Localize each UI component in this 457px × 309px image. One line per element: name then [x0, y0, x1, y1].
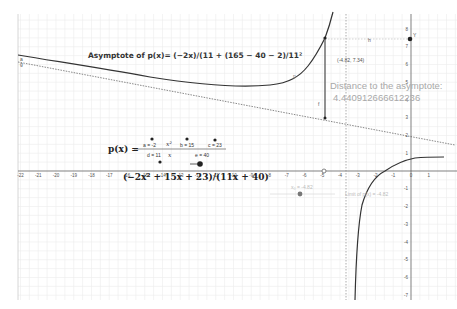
curve-p-right-branch[interactable] — [355, 157, 444, 300]
distance-label: Distance to the asymptote: 4.44091266661… — [330, 80, 442, 104]
svg-text:-18: -18 — [88, 173, 95, 178]
svg-text:-4: -4 — [404, 240, 408, 245]
svg-text:-1: -1 — [391, 173, 395, 178]
svg-text:-2: -2 — [404, 204, 408, 209]
svg-text:-7: -7 — [285, 173, 289, 178]
distance-value: 4.440912666612236 — [333, 92, 442, 104]
slider-d-handle[interactable] — [158, 160, 161, 163]
px-label: p(x) = — [108, 144, 139, 154]
slider-e-handle[interactable] — [197, 161, 203, 167]
svg-text:-20: -20 — [53, 173, 60, 178]
point-on-x-axis[interactable] — [322, 169, 326, 173]
svg-text:-5: -5 — [320, 173, 324, 178]
point-y[interactable] — [408, 37, 413, 42]
slider-x0-label: x₀ = -4.82 — [291, 184, 313, 190]
graph-canvas[interactable]: -22-21-20-19-18-17-16-15-14-13-12-11-10-… — [0, 0, 457, 309]
slider-x0-handle[interactable] — [298, 192, 303, 197]
slider-b-handle[interactable] — [185, 137, 188, 140]
point-coords-label: (-4.82, 7.34) — [337, 57, 364, 63]
svg-text:-22: -22 — [17, 173, 24, 178]
segment-f-label: f — [318, 101, 319, 107]
segment-h-label: h — [368, 37, 371, 43]
point-on-asymptote[interactable] — [324, 117, 327, 120]
x-squared: x² — [166, 140, 172, 147]
slider-c-label: c = 23 — [208, 142, 222, 148]
slider-a-label: a = -2 — [143, 142, 156, 148]
slider-e-label: e = 40 — [195, 152, 209, 158]
svg-text:-21: -21 — [35, 173, 42, 178]
slider-a-handle[interactable] — [150, 137, 153, 140]
svg-text:-7: -7 — [404, 293, 408, 298]
svg-text:-4: -4 — [338, 173, 342, 178]
svg-text:-6: -6 — [302, 173, 306, 178]
svg-text:-3: -3 — [356, 173, 360, 178]
svg-text:-17: -17 — [106, 173, 113, 178]
svg-text:-6: -6 — [404, 275, 408, 280]
svg-text:-3: -3 — [404, 222, 408, 227]
point-t[interactable] — [323, 36, 326, 39]
slider-b-label: b = 15 — [180, 142, 194, 148]
x-variable: x — [168, 151, 171, 158]
line-g-label: g — [20, 61, 23, 67]
curve-p-left-branch[interactable] — [18, 12, 333, 86]
svg-text:-1: -1 — [404, 186, 408, 191]
chart-title: Asymptote of p(x)= (−2x)/(11 + (165 − 40… — [88, 51, 302, 60]
point-y-label: Y — [413, 32, 416, 38]
distance-title: Distance to the asymptote: — [330, 80, 442, 92]
svg-text:-5: -5 — [404, 257, 408, 262]
slider-d-label: d = 11 — [147, 152, 161, 158]
svg-text:1: 1 — [427, 173, 430, 178]
limit-label: Limit of p(x) = -4.82 — [345, 191, 388, 197]
svg-text:-19: -19 — [70, 173, 77, 178]
curve-p-label: p — [293, 73, 296, 79]
expression-label: (−2x² + 15x + 23)/(11x + 40) — [123, 172, 269, 182]
svg-text:0: 0 — [410, 173, 413, 178]
